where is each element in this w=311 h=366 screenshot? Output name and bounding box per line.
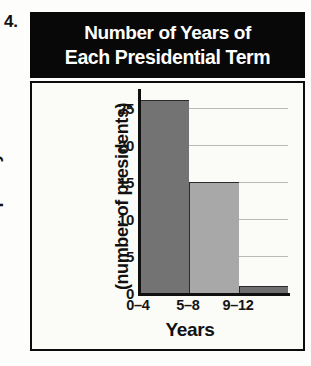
chart-frame: Frequency (number of presidents) 0510152… bbox=[30, 81, 305, 351]
histogram-figure: 4. Number of Years of Each Presidential … bbox=[0, 0, 311, 366]
bar-9–12 bbox=[239, 286, 288, 293]
bar-group bbox=[141, 93, 288, 293]
plot-area bbox=[138, 93, 288, 293]
y-tick-20: 20 bbox=[118, 136, 134, 153]
y-tick-10: 10 bbox=[118, 210, 134, 227]
chart-title-line-2: Each Presidential Term bbox=[65, 45, 270, 70]
chart-title-banner: Number of Years of Each Presidential Ter… bbox=[30, 12, 305, 78]
y-axis-title-line-1: Frequency bbox=[0, 152, 4, 239]
x-tick-9–12: 9–12 bbox=[213, 297, 263, 313]
y-tick-25: 25 bbox=[118, 99, 134, 116]
x-tick-5–8: 5–8 bbox=[163, 297, 213, 313]
problem-number: 4. bbox=[4, 12, 18, 32]
bar-5–8 bbox=[189, 182, 238, 293]
x-axis-line bbox=[138, 293, 290, 296]
x-tick-0–4: 0–4 bbox=[113, 297, 163, 313]
y-axis-tick-labels: 0510152025 bbox=[110, 93, 134, 293]
y-axis-title: Frequency (number of presidents) bbox=[58, 89, 108, 303]
bar-0–4 bbox=[141, 100, 189, 293]
chart-title-line-1: Number of Years of bbox=[84, 20, 251, 45]
x-axis-title: Years bbox=[110, 319, 270, 341]
plot-wrapper: 0510152025 bbox=[110, 93, 288, 305]
y-tick-15: 15 bbox=[118, 173, 134, 190]
x-axis-tick-labels: 0–45–89–12 bbox=[113, 297, 263, 313]
y-tick-5: 5 bbox=[126, 247, 134, 264]
